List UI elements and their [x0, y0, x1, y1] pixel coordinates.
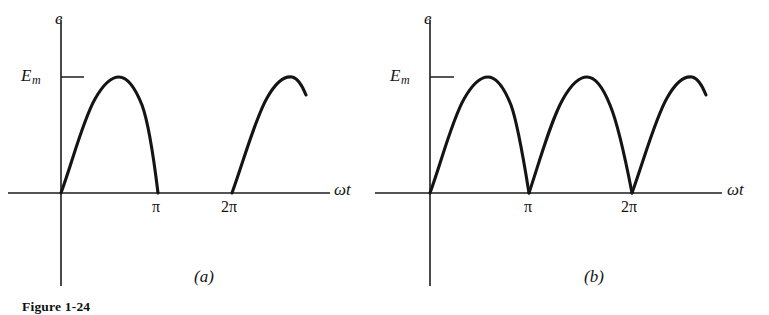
- panel-b-x-axis-label: ωt: [727, 181, 744, 198]
- panel-a-xtick-2pi: 2π: [221, 199, 237, 215]
- panel-b-amplitude-label: Em: [390, 67, 410, 86]
- panel-b-wave-hump-3: [632, 77, 706, 193]
- figure-caption: Figure 1-24: [22, 299, 90, 315]
- panel-a-amplitude-label: Em: [21, 67, 41, 86]
- panel-a-graph: [8, 20, 330, 286]
- panel-a-wave-hump-1: [61, 77, 158, 193]
- panel-b-label: (b): [584, 268, 604, 285]
- panel-b-amplitude-subscript: m: [401, 73, 410, 87]
- panel-a-amplitude-subscript: m: [32, 73, 41, 87]
- panel-a-label: (a): [194, 268, 214, 285]
- panel-b-xtick-pi: π: [524, 199, 532, 215]
- panel-a-amplitude-base: E: [21, 66, 31, 85]
- panel-b-xtick-2pi: 2π: [621, 199, 637, 215]
- panel-a-wave-hump-2: [232, 77, 306, 193]
- panel-a-x-axis-label: ωt: [334, 181, 351, 198]
- panel-b-amplitude-base: E: [390, 66, 400, 85]
- panel-b-wave-hump-2: [529, 77, 632, 193]
- panel-a-y-axis-label: e: [55, 10, 63, 27]
- panel-b-y-axis-label: e: [424, 10, 432, 27]
- panel-b-wave-hump-1: [430, 77, 529, 193]
- panel-b-graph: [375, 20, 722, 286]
- panel-a-xtick-pi: π: [152, 199, 160, 215]
